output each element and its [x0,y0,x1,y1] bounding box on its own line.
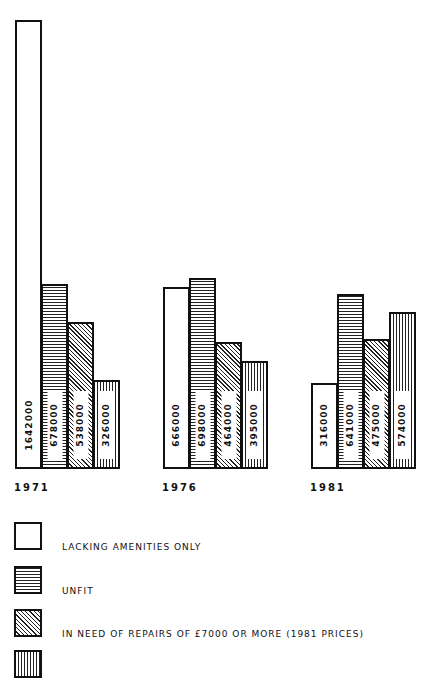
legend-item-unfit: UNFIT [14,566,434,596]
bar-value-label: 641000 [346,403,356,447]
bar-value-label: 574000 [398,403,408,447]
bar-value-box: 641000 [343,391,358,459]
bar-value-box: 395000 [247,391,262,459]
bar-1976-series-0: 666000 [163,287,190,469]
bar-value-box: 678000 [47,391,62,459]
year-label-1976: 1976 [162,482,198,493]
bar-value-label: 475000 [372,403,382,447]
bar-value-label: 316000 [320,403,330,447]
bar-value-box: 475000 [369,391,384,459]
bar-1981-series-3: 574000 [389,312,416,469]
bar-1971-series-1: 678000 [41,284,68,469]
bar-value-label: 698000 [198,403,208,447]
bar-1981-series-2: 475000 [363,339,390,469]
bar-1981-series-1: 641000 [337,294,364,469]
legend-item-repairs: IN NEED OF REPAIRS OF £7000 OR MORE (198… [14,609,434,639]
bar-value-box: 698000 [195,391,210,459]
bar-value-label: 395000 [250,403,260,447]
legend-item-lacking-amenities: LACKING AMENITIES ONLY [14,522,434,552]
bar-1976-series-3: 395000 [241,361,268,469]
legend-label: UNFIT [62,586,94,596]
bar-value-label: 666000 [172,403,182,447]
bar-value-label: 1642000 [24,400,34,451]
bar-value-box: 464000 [221,391,236,459]
year-label-1981: 1981 [310,482,346,493]
bar-value-box: 1642000 [21,391,36,459]
bar-1976-series-1: 698000 [189,278,216,469]
bar-value-label: 678000 [50,403,60,447]
bar-1971-series-0: 1642000 [15,20,42,469]
bar-value-label: 538000 [76,403,86,447]
legend-label: LACKING AMENITIES ONLY [62,542,201,552]
year-label-1971: 1971 [14,482,50,493]
legend-label: IN NEED OF REPAIRS OF £7000 OR MORE (198… [62,629,364,639]
bar-value-box: 538000 [73,391,88,459]
legend-item-fourth [14,650,434,680]
bar-1981-series-0: 316000 [311,383,338,469]
bar-value-box: 574000 [395,391,410,459]
bar-1971-series-2: 538000 [67,322,94,469]
bar-value-box: 666000 [169,391,184,459]
legend-swatch-white [14,522,42,550]
legend-swatch-diagonal [14,609,42,637]
bar-value-label: 464000 [224,403,234,447]
bar-value-box: 316000 [317,391,332,459]
bar-1976-series-2: 464000 [215,342,242,469]
bar-value-label: 326000 [102,403,112,447]
bar-1971-series-3: 326000 [93,380,120,469]
legend-swatch-vertical [14,650,42,678]
bar-value-box: 326000 [99,391,114,459]
legend-swatch-horizontal [14,566,42,594]
